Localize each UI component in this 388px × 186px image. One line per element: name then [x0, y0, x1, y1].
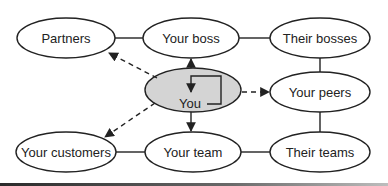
node-your-team: Your team	[145, 132, 241, 172]
node-label: Their teams	[286, 145, 355, 160]
node-label: Your customers	[21, 145, 111, 160]
bottom-divider	[0, 183, 388, 186]
node-their-bosses: Their bosses	[270, 18, 370, 58]
node-label: Your team	[164, 145, 223, 160]
node-label: You	[179, 96, 201, 111]
node-label: Their bosses	[283, 31, 358, 46]
node-partners: Partners	[17, 18, 115, 58]
node-your-customers: Your customers	[16, 132, 116, 172]
node-your-boss: Your boss	[143, 18, 239, 58]
dashed-arrow-to-partners-icon	[109, 53, 157, 78]
node-label: Partners	[41, 31, 91, 46]
node-label: Your boss	[162, 31, 220, 46]
node-label: Your peers	[289, 85, 352, 100]
node-their-teams: Their teams	[270, 132, 370, 172]
relationship-diagram: Partners Your boss Their bosses You Your…	[0, 0, 388, 186]
node-your-peers: Your peers	[270, 72, 370, 112]
dashed-arrow-to-customers-icon	[105, 103, 155, 137]
node-you: You	[145, 68, 241, 112]
